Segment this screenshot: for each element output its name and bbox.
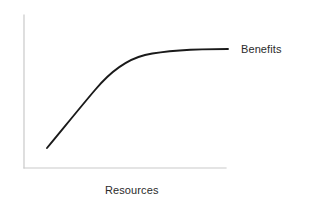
chart-plot-area	[0, 0, 313, 211]
chart-figure: Benefits Resources	[0, 0, 313, 211]
series-label-benefits: Benefits	[241, 43, 282, 55]
x-axis-label: Resources	[105, 184, 158, 196]
benefits-curve	[47, 49, 228, 148]
